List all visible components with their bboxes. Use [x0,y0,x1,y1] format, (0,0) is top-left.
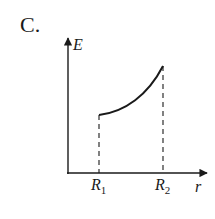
r2-label: R2 [154,176,170,196]
diagram-canvas: C. E r R1 R2 [0,0,215,219]
y-axis-label: E [72,36,83,53]
x-axis-label: r [195,178,202,195]
r1-label: R1 [90,176,106,196]
option-label: C. [20,12,40,37]
field-curve [99,66,163,115]
